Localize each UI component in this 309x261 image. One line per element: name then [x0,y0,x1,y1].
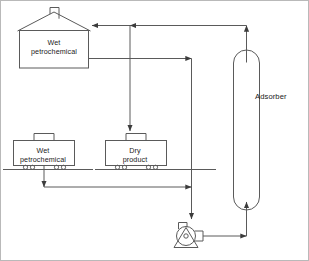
label-adsorber: Adsorber [255,93,309,102]
process-flow-diagram: Wet petrochemical Wet petrochemical Dry … [0,0,309,261]
stream-railcar-wet-to-riser [44,166,192,188]
stream-adsorber-to-building [92,26,247,63]
label-railcar-dry: Dry product [103,147,167,164]
stream-building-to-riser [89,59,192,220]
label-building-line2: petrochemical [21,48,87,57]
label-building: Wet petrochemical [21,39,87,56]
label-railcar-wet: Wet petrochemical [9,147,77,164]
label-railcar-dry-line2: product [103,156,167,165]
node-adsorber [234,50,260,210]
label-railcar-wet-line2: petrochemical [9,156,77,165]
stream-pump-to-adsorber [203,202,247,236]
node-pump [174,223,203,248]
